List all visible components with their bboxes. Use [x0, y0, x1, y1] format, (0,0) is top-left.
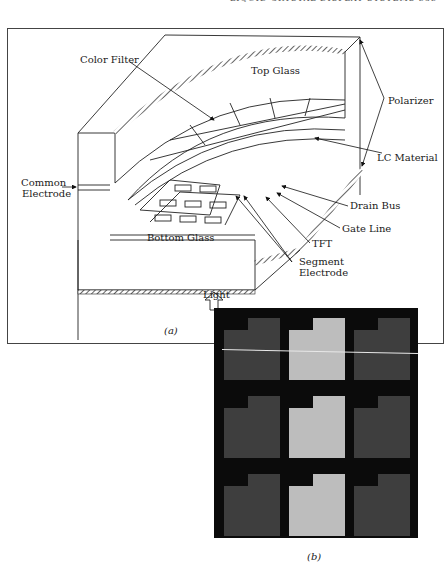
pixel-cell: [354, 318, 410, 380]
pixel-cell: [354, 396, 410, 458]
pixel-cell: [289, 396, 345, 458]
label-polarizer: Polarizer: [388, 95, 433, 106]
pixel-cell: [289, 474, 345, 536]
pixel-cell: [224, 396, 280, 458]
label-common-electrode-line2: Electrode: [22, 188, 71, 199]
caption-b: (b): [307, 551, 321, 562]
label-drain-bus: Drain Bus: [350, 200, 401, 211]
tft-pixel-photograph: [214, 308, 418, 538]
label-light: Light: [203, 289, 230, 300]
pixel-cell: [224, 474, 280, 536]
label-segment-electrode-line2: Electrode: [299, 267, 348, 278]
caption-a: (a): [164, 325, 178, 336]
label-segment-electrode-line1: Segment: [299, 256, 344, 267]
label-color-filter: Color Filter: [80, 54, 139, 65]
pixel-cell: [289, 318, 345, 380]
label-tft: TFT: [312, 238, 332, 249]
label-gate-line: Gate Line: [342, 223, 391, 234]
label-common-electrode-line1: Common: [21, 177, 66, 188]
pixel-cell: [354, 474, 410, 536]
label-bottom-glass: Bottom Glass: [147, 232, 215, 243]
label-top-glass: Top Glass: [251, 65, 300, 76]
label-lc-material: LC Material: [377, 152, 438, 163]
